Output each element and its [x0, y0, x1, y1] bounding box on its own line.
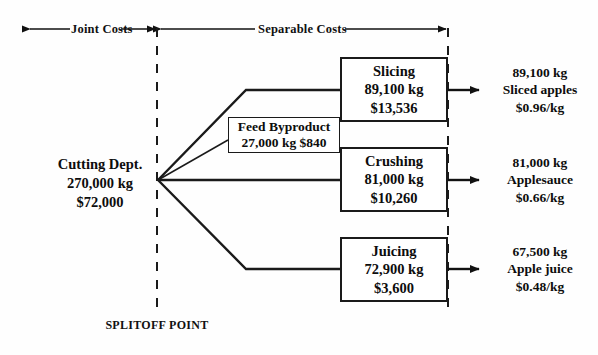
output-apple-juice-product: Apple juice [484, 260, 596, 277]
output-sliced-apples-price: $0.96/kg [484, 99, 596, 116]
process-crushing-cost: $10,260 [370, 189, 417, 208]
output-applesauce-product: Applesauce [484, 171, 596, 188]
process-juicing-cost: $3,600 [374, 279, 414, 298]
output-apple-juice-quantity: 67,500 kg [484, 243, 596, 260]
output-apple-juice-price: $0.48/kg [484, 278, 596, 295]
output-label-apple-juice: 67,500 kg Apple juice $0.48/kg [484, 243, 596, 295]
process-box-juicing: Juicing 72,900 kg $3,600 [340, 237, 448, 302]
feed-byproduct-detail: 27,000 kg $840 [241, 135, 326, 151]
separable-costs-label: Separable Costs [258, 22, 347, 37]
process-slicing-name: Slicing [373, 62, 415, 81]
cutting-dept-label: Cutting Dept. 270,000 kg $72,000 [48, 155, 152, 212]
process-box-slicing: Slicing 89,100 kg $13,536 [340, 57, 448, 122]
cutting-dept-name: Cutting Dept. [48, 155, 152, 174]
process-juicing-quantity: 72,900 kg [365, 260, 424, 279]
feed-byproduct-name: Feed Byproduct [238, 119, 330, 135]
cutting-dept-cost: $72,000 [48, 193, 152, 212]
process-juicing-name: Juicing [371, 242, 416, 261]
output-applesauce-quantity: 81,000 kg [484, 154, 596, 171]
diagram-canvas: Joint Costs Separable Costs Cutting Dept… [0, 0, 598, 355]
output-sliced-apples-quantity: 89,100 kg [484, 64, 596, 81]
process-crushing-quantity: 81,000 kg [365, 170, 424, 189]
process-crushing-name: Crushing [365, 152, 423, 171]
output-label-sliced-apples: 89,100 kg Sliced apples $0.96/kg [484, 64, 596, 116]
output-sliced-apples-product: Sliced apples [484, 81, 596, 98]
output-label-applesauce: 81,000 kg Applesauce $0.66/kg [484, 154, 596, 206]
process-slicing-cost: $13,536 [370, 99, 417, 118]
splitoff-point-label: SPLITOFF POINT [92, 318, 222, 333]
output-applesauce-price: $0.66/kg [484, 189, 596, 206]
feed-byproduct-box: Feed Byproduct 27,000 kg $840 [228, 117, 340, 153]
process-box-crushing: Crushing 81,000 kg $10,260 [340, 147, 448, 212]
joint-costs-label: Joint Costs [71, 22, 133, 37]
cutting-dept-quantity: 270,000 kg [48, 174, 152, 193]
process-slicing-quantity: 89,100 kg [365, 80, 424, 99]
